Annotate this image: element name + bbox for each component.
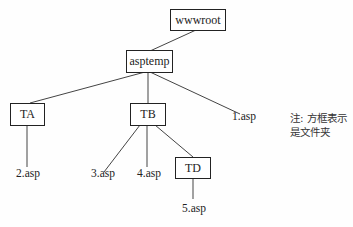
edge-wwwroot-asptemp (150, 30, 196, 51)
edge-tb-td (155, 125, 193, 157)
note-line-2: 是文件夹 (290, 125, 347, 139)
folder-label: asptemp (130, 54, 170, 69)
folder-label: TB (140, 107, 155, 122)
folder-tb: TB (130, 103, 166, 126)
file-5asp: 5.asp (182, 202, 206, 214)
file-2asp: 2.asp (16, 167, 40, 179)
folder-label: TA (20, 107, 35, 122)
file-3asp: 3.asp (91, 167, 115, 179)
file-4asp: 4.asp (137, 167, 161, 179)
folder-wwwroot: wwwroot (170, 9, 226, 31)
note-line-1: 注: 方框表示 (290, 111, 347, 125)
folder-tree-diagram: wwwroot asptemp TA TB TD 1.asp 2.asp 3.a… (0, 0, 353, 227)
edge-tb-3asp (104, 125, 140, 172)
file-1asp: 1.asp (232, 110, 256, 122)
legend-note: 注: 方框表示 是文件夹 (290, 111, 347, 139)
folder-td: TD (175, 157, 211, 179)
edge-asptemp-ta (30, 72, 145, 103)
folder-label: TD (185, 161, 201, 176)
folder-ta: TA (10, 103, 45, 126)
folder-label: wwwroot (175, 13, 220, 28)
folder-asptemp: asptemp (126, 50, 173, 73)
